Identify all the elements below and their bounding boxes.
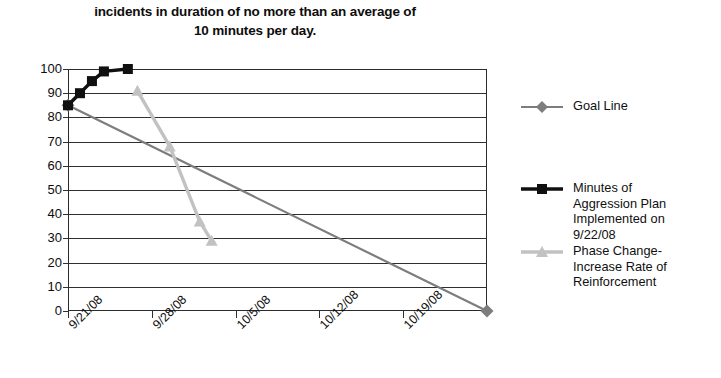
chart-title-line-1: incidents in duration of no more than an… [94,4,416,19]
y-axis-tick [63,287,69,288]
legend-label: Goal Line [565,98,628,114]
y-axis-tick [63,142,69,143]
legend-entry[interactable]: Phase Change- Increase Rate of Reinforce… [519,243,667,290]
legend-label: Minutes of Aggression Plan Implemented o… [565,180,666,242]
legend-key [519,181,565,197]
x-axis-tick-label: 10/12/08 [317,322,327,332]
y-axis-tick-label: 0 [28,303,62,318]
x-axis-tick [68,311,69,318]
y-axis-tick-label: 70 [28,134,62,149]
x-axis-tick [236,311,237,318]
y-axis-tick-label: 100 [28,61,62,76]
gridline [69,142,486,143]
y-axis-tick [63,93,69,94]
y-axis-tick-label: 30 [28,230,62,245]
y-axis-tick-label: 20 [28,255,62,270]
y-axis-tick [63,166,69,167]
legend-entry[interactable]: Goal Line [519,98,628,115]
x-axis-tick [152,311,153,318]
y-axis-tick [63,214,69,215]
legend-entry[interactable]: Minutes of Aggression Plan Implemented o… [519,180,666,242]
x-axis-tick-label: 10/19/08 [401,322,411,332]
gridline [69,287,486,288]
chart-title-line-2: 10 minutes per day. [194,23,316,38]
gridline [69,263,486,264]
gridline [69,93,486,94]
x-axis-labels: 9/21/089/28/0810/5/0810/12/0810/19/08 [0,322,500,378]
plot-area [68,69,487,311]
x-axis-tick-label: 9/28/08 [150,322,160,332]
chart-title: incidents in duration of no more than an… [20,2,490,40]
y-axis-labels: 0102030405060708090100 [22,69,62,311]
legend-marker-icon [519,244,565,260]
y-axis-tick-label: 90 [28,85,62,100]
y-axis-tick-label: 10 [28,279,62,294]
square-marker-icon [537,184,547,194]
gridline [69,238,486,239]
y-axis-tick [63,190,69,191]
legend-key [519,99,565,115]
y-axis-tick [63,263,69,264]
y-axis-tick-label: 40 [28,206,62,221]
y-axis-tick [63,238,69,239]
x-axis-tick [403,311,404,318]
y-axis-tick [63,117,69,118]
legend-marker-icon [519,181,565,197]
x-axis-tick-label: 10/5/08 [234,322,244,332]
y-axis-tick-label: 50 [28,182,62,197]
x-axis-tick-label: 9/21/08 [66,322,76,332]
legend-key [519,244,565,260]
legend-marker-icon [519,99,565,115]
gridline [69,117,486,118]
y-axis-tick-label: 60 [28,158,62,173]
diamond-marker-icon [536,101,548,113]
gridline [69,166,486,167]
legend-label: Phase Change- Increase Rate of Reinforce… [565,243,667,290]
y-axis-tick [63,69,69,70]
gridline [69,190,486,191]
chart-screenshot: incidents in duration of no more than an… [0,0,721,378]
gridline [69,214,486,215]
y-axis-tick-label: 80 [28,109,62,124]
